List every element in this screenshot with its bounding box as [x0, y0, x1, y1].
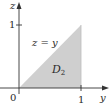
z-tick-label: 1	[9, 19, 15, 30]
region-label-main: D	[51, 63, 61, 76]
region-label-subscript: 2	[61, 69, 65, 77]
y-tick-label: 1	[78, 94, 84, 105]
y-axis-arrow-icon	[102, 86, 109, 91]
curve-label: z = y	[31, 37, 58, 48]
z-axis-arrow-icon	[17, 2, 22, 9]
origin-label: 0	[10, 92, 16, 103]
diagram-canvas: z 1 z = y D2 0 1 y	[0, 0, 110, 109]
shaded-region-d2	[19, 25, 81, 88]
y-axis-label: y	[99, 92, 106, 103]
z-axis-label: z	[9, 0, 16, 11]
